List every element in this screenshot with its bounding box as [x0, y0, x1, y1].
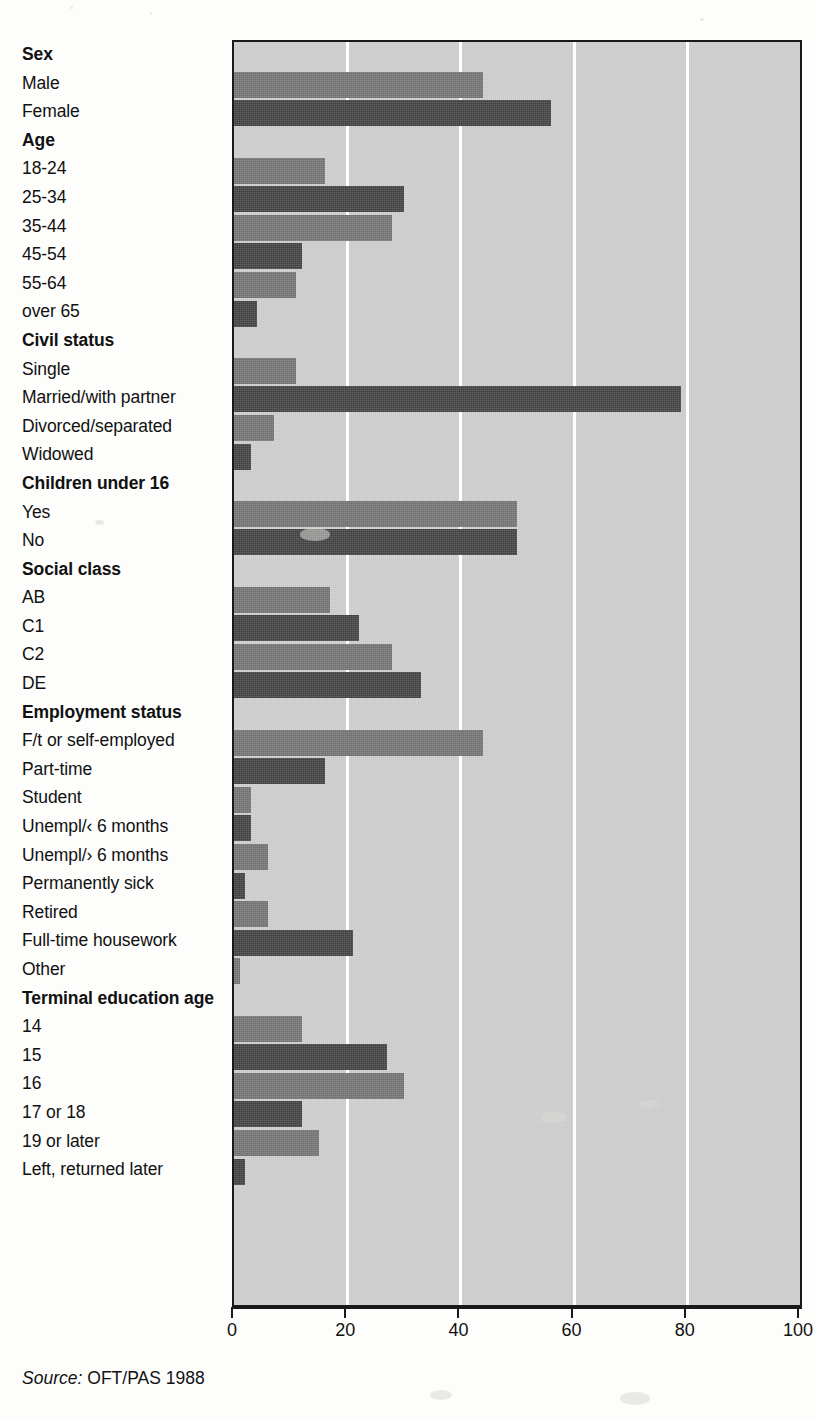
scan-speckle [620, 1392, 650, 1405]
group-label: Sex [0, 40, 232, 69]
scan-speckle [430, 1390, 452, 1400]
axis-tick-label: 60 [562, 1320, 582, 1341]
plot-row [234, 871, 800, 900]
bar [234, 158, 325, 184]
plot-row [234, 671, 800, 700]
plot-row [234, 929, 800, 958]
plot-row [234, 728, 800, 757]
plot-row [234, 442, 800, 471]
scan-speckle [540, 1112, 566, 1123]
category-label: DE [0, 669, 232, 698]
category-label: 17 or 18 [0, 1098, 232, 1127]
bar-chart-figure: SexMaleFemaleAge18-2425-3435-4445-5455-6… [0, 0, 816, 1421]
category-label: Full-time housework [0, 926, 232, 955]
bar [234, 672, 421, 698]
category-label: F/t or self-employed [0, 726, 232, 755]
bar [234, 358, 296, 384]
plot-row-spacer [234, 42, 800, 71]
bar [234, 501, 517, 527]
category-label: Male [0, 69, 232, 98]
plot-row [234, 500, 800, 529]
axis-tick [684, 1307, 686, 1318]
axis-tick [344, 1307, 346, 1318]
group-label: Employment status [0, 698, 232, 727]
plot-row [234, 643, 800, 672]
bar [234, 444, 251, 470]
plot-row [234, 185, 800, 214]
plot-row-spacer [234, 471, 800, 500]
source-text: OFT/PAS 1988 [82, 1368, 204, 1388]
plot-row [234, 357, 800, 386]
category-label: C2 [0, 640, 232, 669]
scan-speckle [150, 12, 152, 15]
bar [234, 787, 251, 813]
plot-row [234, 71, 800, 100]
bar [234, 1159, 245, 1185]
bar [234, 1073, 404, 1099]
bar [234, 844, 268, 870]
bar [234, 958, 240, 984]
group-label: Terminal education age [0, 984, 232, 1013]
category-label: Student [0, 783, 232, 812]
bar [234, 1044, 387, 1070]
bar [234, 100, 551, 126]
scan-speckle [700, 18, 704, 21]
category-label: over 65 [0, 297, 232, 326]
plot-row [234, 814, 800, 843]
category-label: Unempl/‹ 6 months [0, 812, 232, 841]
plot-row [234, 242, 800, 271]
plot-row [234, 1014, 800, 1043]
axis-tick [457, 1307, 459, 1318]
category-label: Divorced/separated [0, 412, 232, 441]
bar [234, 386, 681, 412]
bar [234, 1130, 319, 1156]
axis-tick [231, 1307, 233, 1318]
source-note: Source:OFT/PAS 1988 [22, 1368, 205, 1389]
axis-tick [797, 1307, 799, 1318]
bar [234, 758, 325, 784]
group-label: Civil status [0, 326, 232, 355]
axis-tick-label: 100 [783, 1320, 813, 1341]
x-axis: 020406080100 [232, 1307, 802, 1347]
category-label: Single [0, 355, 232, 384]
plot-row-spacer [234, 128, 800, 157]
scan-speckle [300, 528, 330, 541]
plot-row [234, 299, 800, 328]
axis-tick-label: 80 [675, 1320, 695, 1341]
bar [234, 730, 483, 756]
category-label: Unempl/› 6 months [0, 841, 232, 870]
bar [234, 243, 302, 269]
category-label: AB [0, 583, 232, 612]
bar [234, 186, 404, 212]
plot-row [234, 957, 800, 986]
category-label: Married/with partner [0, 383, 232, 412]
axis-tick-label: 0 [227, 1320, 237, 1341]
bar [234, 272, 296, 298]
plot-row-spacer [234, 328, 800, 357]
bar [234, 815, 251, 841]
plot-row [234, 757, 800, 786]
bar [234, 1101, 302, 1127]
scan-speckle [70, 6, 73, 9]
source-prefix: Source: [22, 1368, 82, 1388]
category-label: Retired [0, 898, 232, 927]
plot-row [234, 385, 800, 414]
plot-row [234, 585, 800, 614]
category-label: 16 [0, 1069, 232, 1098]
category-label-column: SexMaleFemaleAge18-2425-3435-4445-5455-6… [0, 40, 232, 1184]
bar [234, 644, 392, 670]
category-label: Female [0, 97, 232, 126]
plot-row [234, 271, 800, 300]
plot-area [232, 40, 802, 1309]
category-label: C1 [0, 612, 232, 641]
bar [234, 930, 353, 956]
category-label: 14 [0, 1012, 232, 1041]
axis-tick-label: 40 [448, 1320, 468, 1341]
category-label: 15 [0, 1041, 232, 1070]
plot-row [234, 414, 800, 443]
bar [234, 1016, 302, 1042]
bar [234, 415, 274, 441]
category-label: Yes [0, 498, 232, 527]
axis-line [232, 1305, 800, 1307]
plot-row-spacer [234, 557, 800, 586]
